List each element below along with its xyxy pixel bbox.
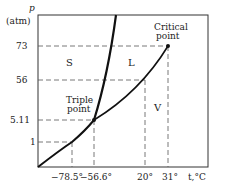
- phase-diagram-canvas: [0, 0, 231, 188]
- plot-frame: [38, 15, 208, 167]
- triple-point-marker: [92, 118, 96, 122]
- x-tick-31: 31°: [162, 172, 178, 182]
- x-tick-minus56.6: −56.6°: [80, 172, 112, 182]
- y-tick-73: 73: [16, 41, 27, 51]
- critical-point-marker: [166, 44, 170, 48]
- region-liquid: L: [128, 57, 135, 68]
- y-axis-symbol: p: [29, 3, 35, 13]
- sublimation-curve: [38, 120, 94, 167]
- dashed-guides: [38, 46, 168, 167]
- x-tick-20: 20°: [137, 172, 153, 182]
- x-tick-minus78.5: −78.5°: [51, 172, 83, 182]
- y-tick-5.11: 5.11: [10, 115, 30, 125]
- phase-curves: [38, 15, 168, 167]
- x-axis-label: t,°C: [188, 172, 206, 182]
- y-tick-1: 1: [30, 137, 36, 147]
- region-vapor: V: [154, 102, 161, 113]
- triple-point-label-line2: point: [67, 104, 90, 114]
- critical-point-label-line2: point: [156, 31, 179, 41]
- y-tick-56: 56: [16, 75, 27, 85]
- y-axis-unit: (atm): [6, 16, 31, 26]
- region-solid: S: [66, 57, 73, 68]
- melting-curve: [94, 15, 116, 120]
